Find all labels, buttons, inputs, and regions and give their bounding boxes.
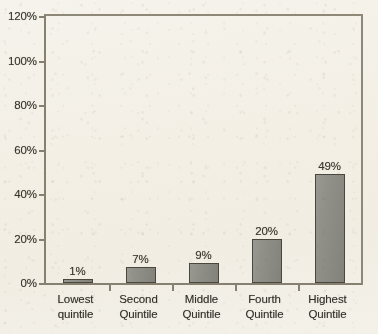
bar-value-label: 20%: [255, 225, 278, 237]
y-axis-tick: [39, 194, 46, 196]
y-axis-tick-label: 120%: [8, 10, 37, 22]
bar-value-label: 49%: [318, 160, 341, 172]
x-axis-tick: [172, 283, 174, 291]
category-label-line: Quintile: [170, 307, 233, 322]
y-axis-tick-label: 20%: [14, 233, 37, 245]
category-label-line: Quintile: [107, 307, 170, 322]
category-label-line: Quintile: [296, 307, 359, 322]
y-axis-tick: [39, 16, 46, 18]
y-axis-tick: [39, 61, 46, 63]
x-axis-category-label: Lowestquintile: [44, 292, 107, 321]
x-axis-category-label: SecondQuintile: [107, 292, 170, 321]
x-axis-tick: [109, 283, 111, 291]
bar: 9%: [189, 263, 219, 283]
bar-value-label: 9%: [195, 249, 211, 261]
x-axis-category-label: FourthQuintile: [233, 292, 296, 321]
y-axis-tick: [39, 239, 46, 241]
bar: 49%: [315, 174, 345, 283]
x-axis-tick: [235, 283, 237, 291]
y-axis-tick: [39, 283, 46, 285]
y-axis-tick-label: 60%: [14, 144, 37, 156]
category-label-line: Lowest: [44, 292, 107, 307]
category-label-line: Fourth: [233, 292, 296, 307]
bar-value-label: 1%: [69, 265, 85, 277]
category-label-line: Highest: [296, 292, 359, 307]
plot-frame: 0%20%40%60%80%100%120%1%7%9%20%49%: [44, 14, 363, 285]
category-label-line: Quintile: [233, 307, 296, 322]
y-axis-tick: [39, 105, 46, 107]
plot-area: 0%20%40%60%80%100%120%1%7%9%20%49%: [46, 16, 361, 283]
y-axis-tick-label: 100%: [8, 55, 37, 67]
category-label-line: quintile: [44, 307, 107, 322]
x-axis-category-label: MiddleQuintile: [170, 292, 233, 321]
y-axis-tick-label: 40%: [14, 188, 37, 200]
y-axis-tick-label: 80%: [14, 99, 37, 111]
x-axis-category-label: HighestQuintile: [296, 292, 359, 321]
x-axis-tick: [298, 283, 300, 291]
y-axis-tick-label: 0%: [21, 277, 37, 289]
category-label-line: Second: [107, 292, 170, 307]
bar: 20%: [252, 239, 282, 284]
bar-value-label: 7%: [132, 253, 148, 265]
bar-chart-screenshot: 0%20%40%60%80%100%120%1%7%9%20%49% Lowes…: [0, 0, 378, 334]
bar: 7%: [126, 267, 156, 283]
category-label-line: Middle: [170, 292, 233, 307]
y-axis-tick: [39, 150, 46, 152]
bar: 1%: [63, 279, 93, 283]
